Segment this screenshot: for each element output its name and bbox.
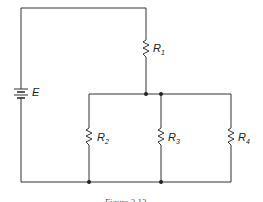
node-dot-icon: [159, 92, 163, 96]
node-dot-icon: [87, 180, 91, 184]
node-dot-icon: [159, 180, 163, 184]
wire-bottom: [21, 97, 231, 182]
resistor-r3-icon: [158, 128, 164, 145]
figure-caption: Figure 3.13: [105, 197, 147, 202]
resistor-r4-icon: [228, 128, 234, 145]
battery-icon: [14, 89, 28, 98]
label-r3: R3: [168, 131, 180, 145]
resistor-r2-icon: [86, 128, 92, 145]
node-dot-icon: [144, 92, 148, 96]
label-r1: R1: [153, 42, 165, 56]
label-r2: R2: [97, 131, 109, 145]
circuit-diagram: E R1 R2 R3 R4 Figure 3.13: [0, 0, 263, 202]
label-e: E: [32, 86, 40, 98]
wire-top: [21, 8, 146, 89]
label-r4: R4: [238, 131, 250, 145]
resistor-r1-icon: [143, 40, 149, 57]
